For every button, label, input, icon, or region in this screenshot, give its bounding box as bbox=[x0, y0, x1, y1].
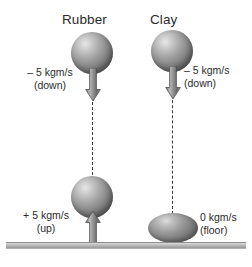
column-title-rubber: Rubber bbox=[62, 12, 107, 27]
up-arrow-icon-rubber bbox=[85, 211, 101, 245]
floor-top-edge bbox=[6, 242, 246, 243]
floor-surface bbox=[6, 242, 246, 249]
momentum-label-rubber-before: – 5 kgm/s (down) bbox=[12, 66, 88, 92]
clay-ball-after-impact-flattened bbox=[148, 213, 198, 243]
momentum-direction-clay-after: (floor) bbox=[200, 224, 252, 237]
momentum-value-clay-before: – 5 kgm/s bbox=[184, 64, 230, 76]
momentum-label-rubber-after: + 5 kgm/s (up) bbox=[8, 209, 84, 235]
momentum-label-clay-after: 0 kgm/s (floor) bbox=[200, 211, 252, 237]
momentum-direction-rubber-before: (down) bbox=[12, 79, 88, 92]
momentum-diagram: Rubber Clay – 5 kgm/s (down) bbox=[0, 0, 252, 267]
momentum-value-rubber-after: + 5 kgm/s bbox=[23, 209, 69, 221]
momentum-direction-rubber-after: (up) bbox=[8, 222, 84, 235]
momentum-direction-clay-before: (down) bbox=[184, 77, 252, 90]
momentum-value-rubber-before: – 5 kgm/s bbox=[27, 66, 73, 78]
down-arrow-icon-clay bbox=[165, 66, 181, 100]
momentum-label-clay-before: – 5 kgm/s (down) bbox=[184, 64, 252, 90]
column-title-clay: Clay bbox=[150, 12, 177, 27]
momentum-value-clay-after: 0 kgm/s bbox=[200, 211, 237, 223]
